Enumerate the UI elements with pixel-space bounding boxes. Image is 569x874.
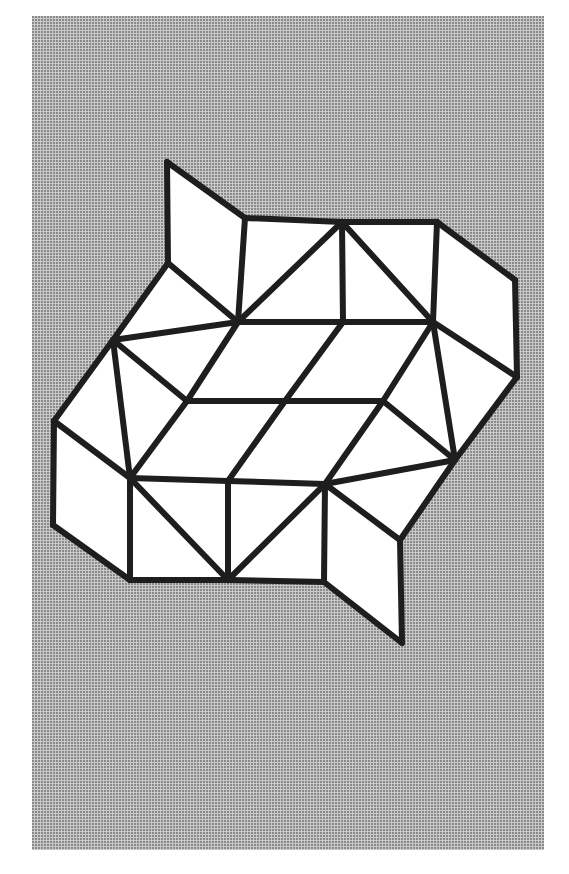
tile-edge	[433, 222, 437, 322]
tile-edge	[515, 280, 517, 377]
tile-edge	[400, 540, 402, 643]
tile-edge	[53, 421, 54, 525]
tile-edge	[228, 580, 324, 582]
tiling-figure	[0, 0, 569, 874]
tile-edge	[228, 481, 325, 484]
tile-edge	[324, 484, 325, 582]
tile-edge	[130, 478, 228, 481]
tile-edge	[245, 218, 342, 222]
tile-edge	[167, 162, 168, 263]
tile-edge	[342, 222, 343, 322]
